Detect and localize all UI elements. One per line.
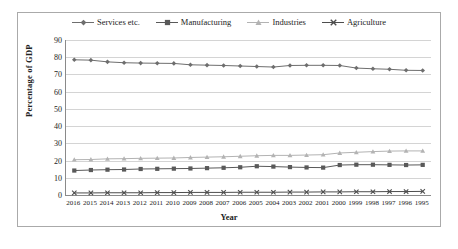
x-tick-label: 2008 xyxy=(199,199,213,207)
data-point-marker xyxy=(421,163,425,167)
data-point-marker xyxy=(155,61,160,66)
data-point-marker xyxy=(404,68,409,73)
data-point-marker xyxy=(139,167,143,171)
legend-swatch-icon xyxy=(72,18,94,27)
data-point-marker xyxy=(122,167,126,171)
data-point-marker xyxy=(338,163,342,167)
legend-label: Industries xyxy=(272,17,306,27)
data-point-marker xyxy=(371,66,376,71)
x-tick-label: 2015 xyxy=(83,199,97,207)
series-line xyxy=(74,191,422,193)
series-layer xyxy=(66,40,431,195)
x-tick-label: 2014 xyxy=(99,199,113,207)
data-point-marker xyxy=(155,167,159,171)
y-tick-label: 90 xyxy=(54,36,62,45)
series-line xyxy=(74,165,422,171)
data-point-marker xyxy=(354,66,359,71)
y-tick-label: 60 xyxy=(54,87,62,96)
data-point-marker xyxy=(256,20,262,25)
data-point-marker xyxy=(138,61,143,66)
legend-item-industries[interactable]: Industries xyxy=(247,17,306,27)
series-services-etc xyxy=(72,58,425,73)
data-point-marker xyxy=(222,166,226,170)
data-point-marker xyxy=(188,63,193,68)
series-line xyxy=(74,151,422,160)
y-tick-label: 50 xyxy=(54,104,62,113)
data-point-marker xyxy=(72,58,77,63)
data-point-marker xyxy=(172,61,177,66)
x-tick-label: 1996 xyxy=(398,199,412,207)
chart-legend: Services etc.ManufacturingIndustriesAgri… xyxy=(18,17,440,27)
x-tick-label: 2003 xyxy=(282,199,296,207)
data-point-marker xyxy=(205,166,209,170)
data-point-marker xyxy=(254,64,259,69)
data-point-marker xyxy=(172,167,176,171)
x-tick-label: 2004 xyxy=(265,199,279,207)
legend-swatch-icon xyxy=(156,18,178,27)
series-industries xyxy=(72,149,425,162)
x-tick-label: 2006 xyxy=(232,199,246,207)
data-point-marker xyxy=(89,58,94,63)
legend-item-services-etc[interactable]: Services etc. xyxy=(72,17,140,27)
data-point-marker xyxy=(321,63,326,68)
x-tick-label: 2013 xyxy=(116,199,130,207)
data-point-marker xyxy=(420,68,425,73)
x-tick-label: 1999 xyxy=(348,199,362,207)
x-tick-label: 2016 xyxy=(66,199,80,207)
data-point-marker xyxy=(304,165,308,169)
y-tick-label: 0 xyxy=(58,191,62,200)
series-agriculture xyxy=(72,189,425,195)
legend-swatch-icon xyxy=(322,18,344,27)
data-point-marker xyxy=(304,63,309,68)
data-point-marker xyxy=(271,164,275,168)
data-point-marker xyxy=(221,63,226,68)
data-point-marker xyxy=(72,168,76,172)
x-tick-label: 2012 xyxy=(133,199,147,207)
data-point-marker xyxy=(122,60,127,65)
y-tick-label: 30 xyxy=(54,139,62,148)
data-point-marker xyxy=(337,63,342,68)
data-point-marker xyxy=(238,64,243,69)
series-line xyxy=(74,60,422,71)
x-tick-label: 1995 xyxy=(415,199,429,207)
x-tick-label: 2007 xyxy=(216,199,230,207)
x-axis-tick-labels: 2016201520142013201220112010200920082007… xyxy=(65,199,431,211)
y-tick-label: 40 xyxy=(54,122,62,131)
y-axis-title: Percentage of GDP xyxy=(24,44,34,117)
data-point-marker xyxy=(387,67,392,72)
x-tick-label: 2011 xyxy=(149,199,163,207)
legend-item-agriculture[interactable]: Agriculture xyxy=(322,17,386,27)
plot-area: 0102030405060708090 xyxy=(65,40,431,196)
legend-swatch-icon xyxy=(247,18,269,27)
x-axis-title: Year xyxy=(18,212,440,222)
legend-label: Manufacturing xyxy=(181,17,232,27)
y-tick-label: 20 xyxy=(54,156,62,165)
data-point-marker xyxy=(331,20,337,26)
gridline xyxy=(66,195,431,196)
data-point-marker xyxy=(205,63,210,68)
data-point-marker xyxy=(105,168,109,172)
x-tick-label: 2002 xyxy=(299,199,313,207)
legend-item-manufacturing[interactable]: Manufacturing xyxy=(156,17,232,27)
x-tick-label: 2009 xyxy=(182,199,196,207)
data-point-marker xyxy=(288,63,293,68)
x-tick-label: 2005 xyxy=(249,199,263,207)
data-point-marker xyxy=(188,166,192,170)
x-tick-label: 2010 xyxy=(166,199,180,207)
series-manufacturing xyxy=(72,163,425,173)
data-point-marker xyxy=(105,60,110,65)
x-tick-label: 1998 xyxy=(365,199,379,207)
data-point-marker xyxy=(404,163,408,167)
data-point-marker xyxy=(238,165,242,169)
legend-label: Services etc. xyxy=(97,17,140,27)
y-tick-label: 70 xyxy=(54,70,62,79)
x-tick-label: 2000 xyxy=(332,199,346,207)
data-point-marker xyxy=(321,166,325,170)
y-tick-label: 10 xyxy=(54,173,62,182)
data-point-marker xyxy=(89,168,93,172)
legend-label: Agriculture xyxy=(347,17,386,27)
data-point-marker xyxy=(165,20,170,25)
data-point-marker xyxy=(354,163,358,167)
chart-figure: Services etc.ManufacturingIndustriesAgri… xyxy=(17,12,441,227)
x-tick-label: 1997 xyxy=(382,199,396,207)
